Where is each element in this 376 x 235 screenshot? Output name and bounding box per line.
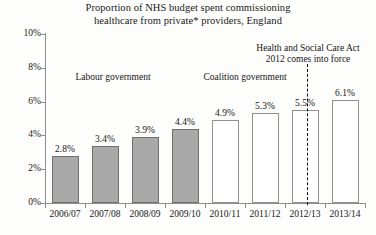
x-tick-mark <box>325 204 326 208</box>
y-axis-line <box>45 33 46 204</box>
x-category-label: 2011/12 <box>243 209 287 220</box>
y-tick-mark <box>41 34 45 35</box>
x-category-label: 2008/09 <box>123 209 167 220</box>
chart-title-line-1: Proportion of NHS budget spent commissio… <box>0 2 376 15</box>
bar-value-label: 5.3% <box>245 101 285 111</box>
annotation-hsc-act: Health and Social Care Act 2012 comes in… <box>240 43 376 65</box>
annotation-coalition-era: Coalition government <box>190 72 300 83</box>
bar-2007-08 <box>92 146 119 203</box>
x-category-label: 2007/08 <box>83 209 127 220</box>
bar-value-label: 4.9% <box>205 108 245 118</box>
x-tick-mark <box>365 204 366 208</box>
chart-container: Proportion of NHS budget spent commissio… <box>0 0 376 235</box>
bar-value-label: 6.1% <box>325 88 365 98</box>
x-tick-mark <box>285 204 286 208</box>
x-tick-mark <box>125 204 126 208</box>
x-category-label: 2009/10 <box>163 209 207 220</box>
x-category-label: 2012/13 <box>283 209 327 220</box>
y-tick-label: 2% <box>11 164 41 174</box>
y-tick-mark <box>41 102 45 103</box>
y-tick-mark <box>41 68 45 69</box>
y-tick-2pct: 2% <box>8 164 41 174</box>
annotation-hsc-act-line-1: Health and Social Care Act <box>256 43 359 53</box>
x-category-label: 2010/11 <box>203 209 247 220</box>
hsc-act-divider <box>307 64 308 205</box>
annotation-labour-era: Labour government <box>58 72 168 83</box>
x-category-label: 2006/07 <box>43 209 87 220</box>
chart-title-line-2: healthcare from private* providers, Engl… <box>0 15 376 28</box>
y-tick-8pct: 8% <box>8 63 41 73</box>
bar-value-label: 3.9% <box>125 125 165 135</box>
y-tick-10pct: 10% <box>8 29 41 39</box>
y-tick-6pct: 6% <box>8 97 41 107</box>
y-tick-label: 4% <box>11 130 41 140</box>
y-tick-label: 6% <box>11 97 41 107</box>
bar-2013-14 <box>332 100 359 203</box>
x-tick-mark <box>165 204 166 208</box>
bar-value-label: 4.4% <box>165 117 205 127</box>
x-tick-mark <box>245 204 246 208</box>
y-tick-label: 8% <box>11 63 41 73</box>
x-tick-mark <box>85 204 86 208</box>
y-tick-mark <box>41 135 45 136</box>
x-tick-mark <box>205 204 206 208</box>
annotation-hsc-act-line-2: 2012 comes into force <box>266 54 351 64</box>
y-tick-label: 0% <box>11 198 41 208</box>
y-tick-0pct: 0% <box>8 198 41 208</box>
bar-2011-12 <box>252 113 279 203</box>
x-category-label: 2013/14 <box>323 209 367 220</box>
bar-2009-10 <box>172 129 199 203</box>
bar-2008-09 <box>132 137 159 203</box>
bar-2010-11 <box>212 120 239 203</box>
y-tick-mark <box>41 169 45 170</box>
bar-2006-07 <box>52 156 79 203</box>
y-tick-4pct: 4% <box>8 130 41 140</box>
x-tick-mark <box>45 204 46 208</box>
bar-value-label: 5.5% <box>285 98 325 108</box>
bar-value-label: 2.8% <box>45 144 85 154</box>
bar-2012-13 <box>292 110 319 203</box>
y-tick-label: 10% <box>11 29 41 39</box>
chart-title: Proportion of NHS budget spent commissio… <box>0 2 376 27</box>
bar-value-label: 3.4% <box>85 134 125 144</box>
